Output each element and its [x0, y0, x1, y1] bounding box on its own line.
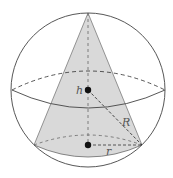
label-r: r: [106, 145, 112, 158]
label-h: h: [76, 84, 83, 97]
label-R: R: [121, 116, 130, 129]
sphere-center-point: [85, 87, 91, 93]
base-center-point: [85, 142, 91, 148]
cone-in-sphere-diagram: h R r: [0, 0, 173, 178]
